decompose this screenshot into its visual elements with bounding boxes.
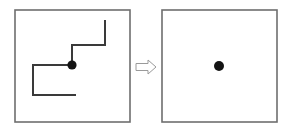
left-panel-point <box>67 60 76 69</box>
arrow-right-icon <box>136 60 156 74</box>
transform-arrow <box>136 60 156 74</box>
diagram-root: Staircase path reduction to a single poi… <box>0 0 285 132</box>
left-panel <box>15 10 130 122</box>
right-panel <box>162 10 277 122</box>
diagram-canvas: Staircase path reduction to a single poi… <box>0 0 285 132</box>
right-panel-point <box>214 61 224 71</box>
